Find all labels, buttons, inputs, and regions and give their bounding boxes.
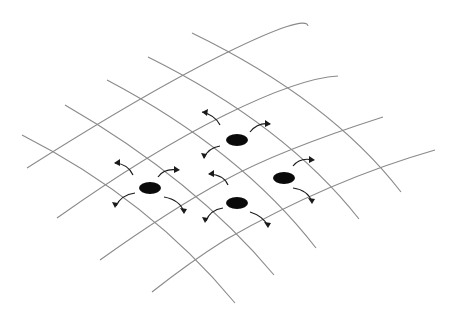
curved-arrow-icon [158, 166, 180, 177]
particle-bottom [226, 197, 248, 209]
particle-top [226, 134, 248, 146]
curved-arrow-icon [201, 146, 220, 159]
particle-left [139, 182, 161, 194]
motion-arrows [112, 109, 315, 228]
grid-row-line-2 [57, 76, 338, 218]
grid-columns [22, 33, 401, 303]
grid-column-line-2 [65, 105, 274, 275]
grid-column-line-5 [192, 33, 401, 192]
particle-right [273, 172, 295, 184]
curved-arrow-icon [164, 197, 187, 214]
grid-rows [27, 23, 435, 292]
grid-column-line-4 [148, 57, 359, 219]
warped-grid-diagram [0, 0, 449, 319]
curved-arrow-icon [208, 170, 228, 185]
curved-arrow-icon [112, 193, 135, 208]
